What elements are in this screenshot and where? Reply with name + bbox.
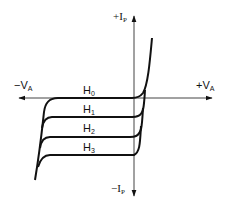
curve-label-h0: H0 (83, 84, 95, 97)
curve-label-h2: H2 (83, 122, 95, 135)
iv-characteristic-diagram: +IP −IP −VA +VA H0 H1 H2 H3 (0, 0, 229, 204)
x-negative-label: −VA (14, 79, 33, 92)
y-positive-label: +IP (113, 10, 127, 24)
curve-label-h3: H3 (83, 141, 95, 154)
curve-label-h1: H1 (83, 103, 95, 116)
x-positive-label: +VA (196, 79, 215, 92)
y-negative-label: −IP (111, 182, 125, 196)
